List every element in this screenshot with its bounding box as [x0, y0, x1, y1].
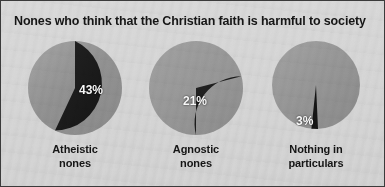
pie-chart-agnostic-nones: 21%	[136, 39, 256, 139]
category-label-line2: nones	[15, 157, 135, 171]
category-label-nothing-in-particulars: Nothing in particulars	[256, 143, 376, 170]
category-label-line2: nones	[136, 157, 256, 171]
category-label-line2: particulars	[256, 157, 376, 171]
pie-value-label-nothing: 3%	[296, 114, 313, 128]
pie-chart-row: 43% 21%	[1, 39, 385, 139]
pie-value-label-atheistic: 43%	[79, 83, 103, 97]
category-label-line1: Agnostic	[173, 143, 219, 155]
category-label-row: Atheistic nones Agnostic nones Nothing i…	[1, 143, 385, 183]
pie-chart-figure: Nones who think that the Christian faith…	[0, 0, 385, 187]
pie-svg-nothing-in-particulars	[270, 39, 362, 131]
pie-value-label-agnostic: 21%	[183, 94, 207, 108]
category-label-agnostic-nones: Agnostic nones	[136, 143, 256, 170]
pie-chart-nothing-in-particulars: 3%	[256, 39, 376, 139]
category-label-line1: Nothing in	[289, 143, 342, 155]
pie-svg-agnostic-nones	[147, 39, 245, 137]
category-label-atheistic-nones: Atheistic nones	[15, 143, 135, 170]
category-label-line1: Atheistic	[52, 143, 98, 155]
chart-title: Nones who think that the Christian faith…	[14, 14, 374, 28]
pie-chart-atheistic-nones: 43%	[15, 39, 135, 139]
pie-svg-atheistic-nones	[26, 39, 124, 137]
